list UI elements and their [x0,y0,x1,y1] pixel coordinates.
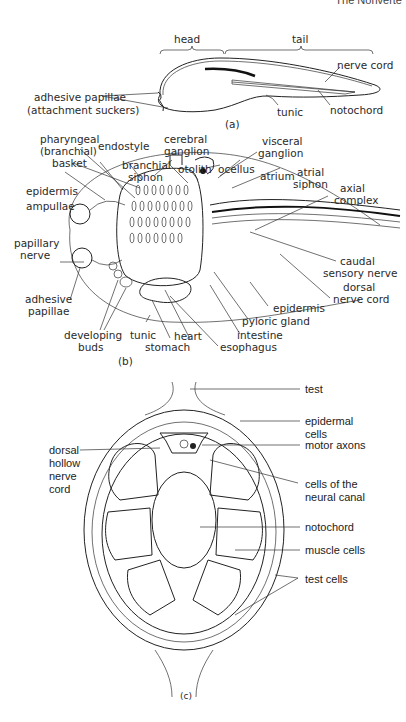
label-ampullae: ampullae [26,200,75,212]
label-otolith: otolith [178,163,212,175]
label-branchial-paren: (branchial) [40,145,97,157]
label-motor-axons: motor axons [305,439,366,452]
label-papillary-nerve: nerve [20,249,50,261]
label-notochord-c: notochord [305,521,354,534]
label-caudal-sensory-nerve: sensory nerve [323,267,397,279]
label-epidermal: epidermal [305,415,353,428]
caption-b: (b) [118,355,133,367]
label-atrium: atrium [260,170,295,182]
label-cord: cord [49,483,70,496]
label-buds: buds [78,341,103,353]
label-notochord-a: notochord [330,104,383,116]
label-papillary: papillary [14,237,59,249]
region-label-tail: tail [292,33,308,45]
caption-c: (c) [180,690,192,702]
label-tunic-b: tunic [130,329,156,341]
label-ocellus: ocellus [218,163,255,175]
label-endostyle: endostyle [98,140,149,152]
label-test: test [305,383,323,396]
label-muscle-cells: muscle cells [305,544,365,557]
label-dorsal-c: dorsal [49,444,79,457]
label-dorsal-nerve-cord-b: nerve cord [333,293,389,305]
label-adhesive: adhesive [25,293,72,305]
label-atrial: atrial [297,166,324,178]
label-cells-of-the: cells of the [305,478,358,491]
label-caudal: caudal [340,255,375,267]
caption-a: (a) [225,118,240,130]
label-test-cells: test cells [305,573,348,586]
label-tunic-a: tunic [277,106,303,118]
label-dorsal-b: dorsal [343,281,375,293]
label-nerve: nerve [49,470,77,483]
label-stomach: stomach [145,341,190,353]
label-cerebral: cerebral [164,133,207,145]
label-adhesive-papillae-b: papillae [28,305,69,317]
label-developing: developing [64,329,122,341]
label-epidermis-top: epidermis [26,185,78,197]
label-branchial-siphon: siphon [128,171,163,183]
label-nerve-cord-a: nerve cord [337,59,393,71]
label-cerebral-ganglion: ganglion [164,145,209,157]
label-axial: axial [340,182,365,194]
label-hollow: hollow [49,457,80,470]
label-neural-canal: neural canal [305,491,365,504]
label-atrial-siphon: siphon [293,178,328,190]
label-attachment-suckers: (attachment suckers) [27,104,139,116]
region-label-head: head [174,33,200,45]
label-pyloric-gland: pyloric gland [242,315,310,327]
label-intestine: intestine [237,329,283,341]
figure-c-drawing [80,382,300,697]
label-branchial: branchial [122,159,171,171]
label-basket: basket [52,157,87,169]
label-pharyngeal: pharyngeal [40,133,99,145]
figure-a-drawing [102,46,380,112]
label-esophagus: esophagus [220,341,277,353]
figure-b-drawing [60,149,400,346]
label-adhesive-papillae-a: adhesive papillae [34,91,126,103]
label-epidermis-bottom: epidermis [273,302,325,314]
label-visceral: visceral [262,135,303,147]
label-visceral-ganglion: ganglion [258,147,303,159]
label-axial-complex: complex [334,194,379,206]
